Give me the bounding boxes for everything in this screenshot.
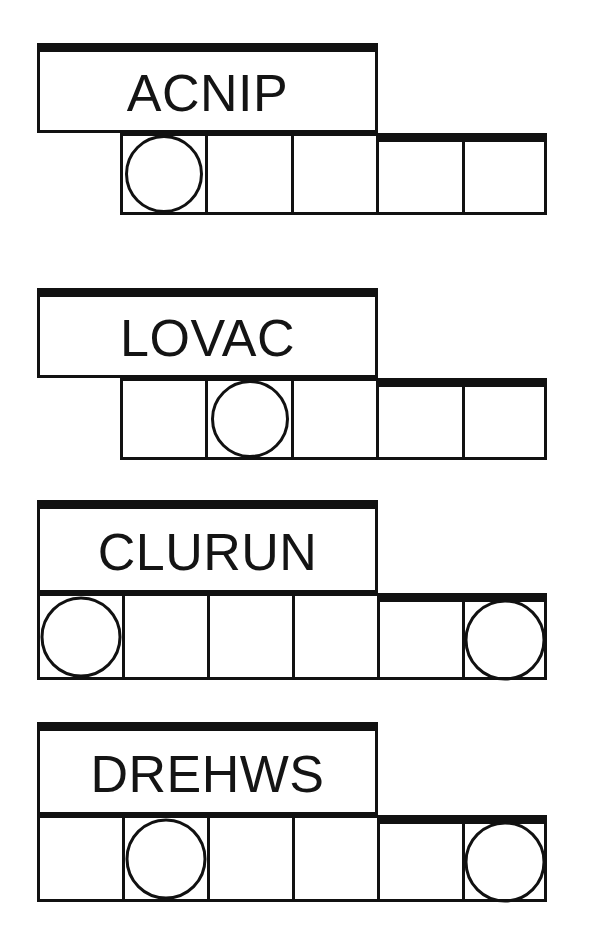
circle-icon: [41, 596, 122, 677]
answer-cell[interactable]: [462, 378, 547, 460]
answer-cell-strip: [120, 378, 547, 460]
scrambled-word-box: ACNIP: [37, 43, 378, 133]
answer-cell[interactable]: [120, 133, 205, 215]
answer-cell[interactable]: [376, 378, 462, 460]
scrambled-word-text: CLURUN: [98, 526, 318, 578]
answer-cell[interactable]: [462, 815, 547, 902]
circle-icon: [211, 380, 289, 458]
answer-cell[interactable]: [377, 815, 462, 902]
puzzle-sheet: ACNIPLOVACCLURUNDREHWS: [0, 0, 593, 931]
answer-cell[interactable]: [122, 593, 207, 680]
answer-cell[interactable]: [120, 378, 205, 460]
answer-cell[interactable]: [292, 815, 377, 902]
circle-icon: [126, 818, 207, 899]
answer-cell[interactable]: [205, 378, 291, 460]
answer-cell-strip: [37, 815, 547, 902]
answer-cell[interactable]: [207, 593, 292, 680]
scrambled-word-box: LOVAC: [37, 288, 378, 378]
scrambled-word-box: CLURUN: [37, 500, 378, 593]
answer-cell[interactable]: [37, 815, 122, 902]
answer-cell[interactable]: [377, 593, 462, 680]
circle-icon: [464, 821, 545, 902]
answer-cell[interactable]: [205, 133, 291, 215]
answer-cell[interactable]: [291, 133, 376, 215]
answer-cell[interactable]: [462, 593, 547, 680]
scrambled-word-text: DREHWS: [90, 748, 324, 800]
scrambled-word-text: LOVAC: [120, 312, 295, 364]
answer-cell-strip: [37, 593, 547, 680]
answer-cell[interactable]: [37, 593, 122, 680]
answer-cell[interactable]: [291, 378, 376, 460]
scrambled-word-text: ACNIP: [127, 67, 288, 119]
answer-cell[interactable]: [207, 815, 292, 902]
answer-cell[interactable]: [376, 133, 462, 215]
circle-icon: [464, 599, 545, 680]
answer-cell[interactable]: [292, 593, 377, 680]
scrambled-word-box: DREHWS: [37, 722, 378, 815]
answer-cell-strip: [120, 133, 547, 215]
answer-cell[interactable]: [462, 133, 547, 215]
circle-icon: [125, 135, 203, 213]
answer-cell[interactable]: [122, 815, 207, 902]
